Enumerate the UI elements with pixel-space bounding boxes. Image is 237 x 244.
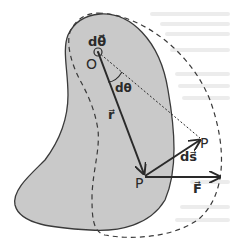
label-radius-vector: r⃗	[108, 108, 114, 121]
label-point-final: P	[200, 136, 208, 150]
label-point-initial: P	[135, 176, 143, 190]
label-origin: O	[86, 57, 97, 71]
label-displacement: ds⃗	[180, 150, 197, 163]
rigid-body-rotation-diagram	[0, 0, 237, 244]
label-dtheta-vector: dθ⃗	[88, 35, 106, 48]
label-force: F⃗	[193, 182, 202, 195]
label-angle: dθ	[115, 82, 132, 94]
